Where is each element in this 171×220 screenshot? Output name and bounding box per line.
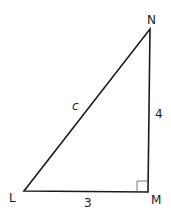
triangle-lmn bbox=[24, 29, 150, 192]
side-label-mn: 4 bbox=[155, 107, 163, 121]
triangle-diagram: N M L c 4 3 bbox=[0, 0, 171, 220]
side-label-ln: c bbox=[72, 99, 79, 113]
vertex-label-m: M bbox=[151, 193, 161, 207]
side-label-lm: 3 bbox=[84, 196, 92, 210]
vertex-label-n: N bbox=[147, 13, 156, 27]
vertex-label-l: L bbox=[9, 191, 16, 205]
right-angle-marker bbox=[137, 181, 148, 192]
